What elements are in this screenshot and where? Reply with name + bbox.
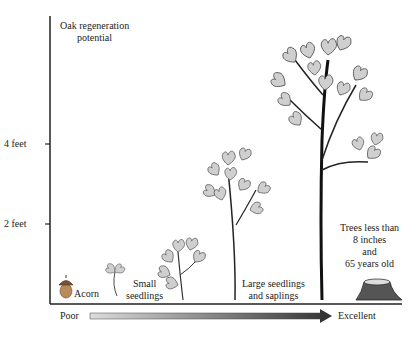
poor-to-excellent-arrow <box>90 309 332 323</box>
stage-trees-label: Trees less than 8 inches and 65 years ol… <box>340 222 399 270</box>
seedling-icon <box>156 237 207 300</box>
small-seedling-icon <box>104 262 126 296</box>
diagram-graphics <box>0 0 417 337</box>
scale-excellent-label: Excellent <box>338 310 376 322</box>
stage-large-seedlings-label: Large seedlings and saplings <box>242 278 305 302</box>
stage-small-seedlings-label: Small seedlings <box>126 278 163 302</box>
acorn-icon <box>59 275 73 298</box>
y-tick-4-feet: 4 feet <box>4 138 27 150</box>
large-seedling-icon <box>202 146 272 300</box>
stage-acorn-label: Acorn <box>74 288 99 300</box>
scale-poor-label: Poor <box>60 310 79 322</box>
y-tick-2-feet: 2 feet <box>4 218 27 230</box>
oak-regeneration-diagram: Oak regeneration potential 4 feet 2 feet… <box>0 0 417 337</box>
diagram-title: Oak regeneration potential <box>60 20 129 44</box>
tree-stump-icon <box>356 279 402 300</box>
